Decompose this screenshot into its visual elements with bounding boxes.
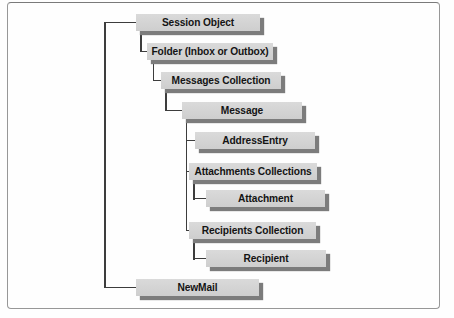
node-message: Message (182, 102, 302, 119)
node-label: AddressEntry (197, 132, 313, 149)
node-label: Attachments Collections (191, 163, 315, 180)
node-label: Session Object (138, 14, 258, 31)
connector-line (186, 119, 188, 231)
node-label: Message (184, 102, 300, 119)
node-messages-collection: Messages Collection (161, 72, 281, 89)
node-recipient: Recipient (206, 250, 326, 267)
node-attachments-collections: Attachments Collections (189, 163, 317, 180)
connector-line (104, 22, 106, 289)
connector-line (193, 180, 195, 200)
node-label: Attachment (208, 190, 323, 207)
node-session-object: Session Object (136, 14, 260, 31)
node-label: Folder (Inbox or Outbox) (149, 43, 271, 60)
connector-line (165, 89, 167, 111)
connector-line (193, 258, 207, 260)
node-label: Messages Collection (163, 72, 279, 89)
connector-line (140, 31, 142, 52)
connector-line (104, 287, 136, 289)
node-recipients-collection: Recipients Collection (189, 222, 316, 239)
object-model-diagram: Session Object Folder (Inbox or Outbox) … (0, 0, 454, 318)
node-label: Recipient (208, 250, 324, 267)
node-newmail: NewMail (136, 279, 259, 296)
connector-line (153, 60, 155, 81)
node-label: Recipients Collection (191, 222, 314, 239)
node-folder: Folder (Inbox or Outbox) (147, 43, 273, 60)
connector-line (193, 239, 195, 260)
node-label: NewMail (138, 279, 257, 296)
node-attachment: Attachment (206, 190, 325, 207)
connector-line (104, 22, 136, 24)
connector-line (193, 198, 207, 200)
connector-line (165, 110, 183, 112)
node-address-entry: AddressEntry (195, 132, 315, 149)
